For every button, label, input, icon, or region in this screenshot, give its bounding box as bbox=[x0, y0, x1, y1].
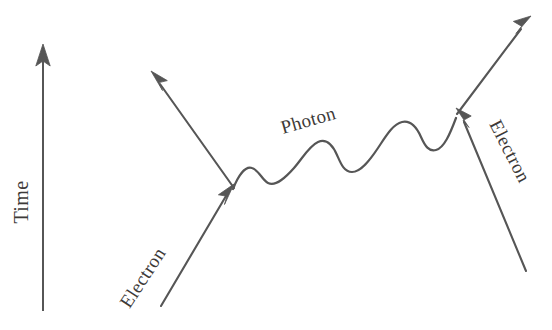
electron-left-vertex-arrowhead-icon bbox=[218, 184, 234, 205]
electron-left-outgoing bbox=[151, 71, 234, 188]
electron-right-outgoing-line bbox=[457, 29, 521, 114]
electron-left-outgoing-arrowhead-icon bbox=[151, 71, 167, 91]
time-axis-label: Time bbox=[10, 180, 32, 223]
photon-wave-path bbox=[233, 118, 456, 189]
electron-right-outgoing bbox=[457, 16, 531, 114]
electron-left-label: Electron bbox=[115, 243, 169, 311]
photon-exchange-line bbox=[233, 118, 456, 189]
electron-right-label: Electron bbox=[485, 116, 534, 186]
electron-left-incoming bbox=[161, 184, 234, 306]
photon-label: Photon bbox=[278, 102, 338, 138]
electron-left-incoming-line bbox=[161, 196, 226, 306]
electron-right-outgoing-arrowhead-icon bbox=[513, 16, 531, 34]
time-axis bbox=[36, 44, 50, 311]
feynman-diagram-canvas: Time Electron Photon Electron bbox=[0, 0, 552, 330]
feynman-diagram-svg: Time Electron Photon Electron bbox=[0, 0, 552, 330]
electron-left-outgoing-line bbox=[160, 84, 234, 188]
